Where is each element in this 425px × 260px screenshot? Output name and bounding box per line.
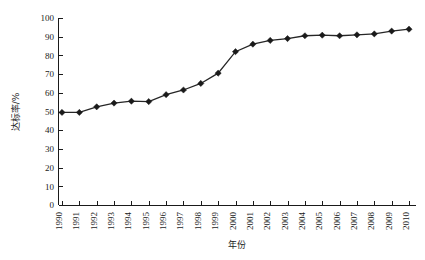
y-axis-tick-labels: 0102030405060708090100: [41, 13, 55, 210]
y-axis-title: 达标率/%: [10, 92, 21, 131]
data-point-marker: [337, 33, 343, 39]
data-point-marker: [371, 31, 377, 37]
chart-figure: 0102030405060708090100 19901991199219931…: [0, 0, 425, 260]
x-tick-label: 2009: [384, 212, 394, 231]
x-tick-label: 2004: [297, 212, 307, 231]
data-point-marker: [128, 98, 134, 104]
y-tick-label: 20: [45, 163, 55, 173]
x-axis-title: 年份: [228, 239, 246, 250]
data-point-marker: [163, 92, 169, 98]
x-tick-label: 2005: [314, 212, 324, 231]
data-point-marker: [250, 41, 256, 47]
data-point-marker: [302, 33, 308, 39]
y-tick-label: 30: [45, 144, 55, 154]
data-point-marker: [389, 28, 395, 34]
x-tick-label: 2002: [262, 212, 272, 230]
x-tick-label: 1995: [141, 212, 151, 231]
x-tick-label: 1998: [193, 212, 203, 231]
y-tick-label: 0: [50, 200, 55, 210]
x-tick-label: 2008: [366, 212, 376, 231]
x-tick-label: 1997: [175, 212, 185, 231]
x-tick-label: 2001: [245, 212, 255, 230]
x-tick-label: 1991: [71, 212, 81, 230]
y-tick-label: 80: [45, 51, 55, 61]
y-tick-label: 10: [45, 182, 55, 192]
data-point-marker: [94, 104, 100, 110]
data-point-marker: [267, 37, 273, 43]
x-tick-label: 2006: [332, 212, 342, 231]
x-tick-label: 1993: [106, 212, 116, 231]
x-axis-tick-labels: 1990199119921993199419951996199719981999…: [54, 212, 411, 231]
x-axis-tick-marks: [63, 201, 410, 205]
x-tick-label: 2000: [228, 212, 238, 231]
x-tick-label: 2010: [401, 212, 411, 231]
data-point-marker: [354, 32, 360, 38]
x-tick-label: 2003: [280, 212, 290, 231]
x-tick-label: 1996: [158, 212, 168, 231]
y-tick-label: 100: [41, 13, 55, 23]
x-tick-label: 1992: [89, 212, 99, 230]
data-markers-series-1: [59, 26, 412, 115]
y-tick-label: 60: [45, 88, 55, 98]
x-tick-label: 2007: [349, 212, 359, 231]
y-tick-label: 50: [45, 107, 55, 117]
y-tick-label: 70: [45, 69, 55, 79]
data-point-marker: [146, 98, 152, 104]
data-point-marker: [111, 100, 117, 106]
data-point-marker: [284, 35, 290, 41]
y-tick-label: 90: [45, 32, 55, 42]
x-tick-label: 1990: [54, 212, 64, 231]
x-tick-label: 1994: [123, 212, 133, 231]
data-point-marker: [180, 87, 186, 93]
data-point-marker: [59, 109, 65, 115]
y-tick-label: 40: [45, 125, 55, 135]
x-tick-label: 1999: [210, 212, 220, 231]
line-chart: 0102030405060708090100 19901991199219931…: [0, 0, 425, 260]
data-point-marker: [76, 109, 82, 115]
data-point-marker: [406, 26, 412, 32]
data-point-marker: [319, 32, 325, 38]
data-point-marker: [198, 80, 204, 86]
